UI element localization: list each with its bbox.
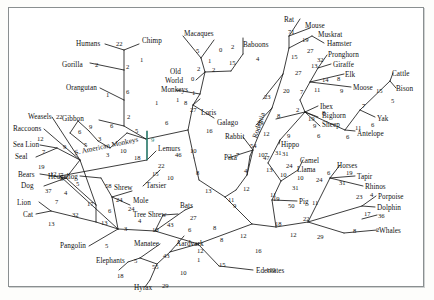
taxon-label-mole: Mole (133, 198, 148, 205)
branch-length: 22 (158, 163, 165, 170)
taxon-label-mouse: Mouse (305, 23, 325, 30)
taxon-label-pig: Pig (299, 199, 309, 206)
branch-length: 8 (322, 110, 325, 117)
branch-length: 58 (105, 183, 112, 190)
branch-length: 54 (250, 143, 257, 150)
branch-length: 17 (87, 201, 94, 208)
taxon-label-muskrat: Muskrat (318, 32, 342, 39)
branch-length: 15 (219, 262, 226, 269)
branch-length: 1 (155, 100, 158, 107)
taxon-label-pronghorn: Pronghorn (328, 52, 359, 59)
branch-length: 1 (192, 90, 195, 97)
branch-length: 5 (84, 142, 87, 149)
branch-length: 7 (300, 89, 303, 96)
branch-length: 7 (362, 103, 365, 110)
branch-length: 22 (116, 41, 123, 48)
branch-length: 2 (126, 64, 129, 71)
branch-length: 6 (78, 129, 81, 136)
branch-length: 15 (291, 54, 298, 61)
branch-length: 2 (197, 66, 200, 73)
taxon-label-rabbit: Rabbit (225, 134, 244, 141)
branch-length: 24 (128, 206, 135, 213)
branch-length: 7 (236, 152, 239, 159)
taxon-label-giraffe: Giraffe (333, 62, 354, 69)
branch-length: 22 (303, 216, 310, 223)
taxon-label-chimp: Chimp (142, 38, 162, 45)
taxon-label-gibbon: Gibbon (62, 116, 84, 123)
branch-length: 2 (231, 44, 234, 51)
branch-length: 23 (264, 94, 271, 101)
branch-length: 1 (140, 57, 143, 64)
taxon-label-hyrax: Hyrax (134, 285, 152, 292)
taxon-label-raccoons: Raccoons (13, 126, 41, 133)
branch-length: 20 (283, 88, 290, 95)
taxon-label-whales: Whales (379, 228, 401, 235)
branch-length: 12 (197, 248, 204, 255)
taxon-label-cat: Cat (23, 212, 33, 219)
branch-length: 27 (190, 215, 197, 222)
branch-length: 10 (280, 172, 287, 179)
branch-length: 13 (311, 63, 318, 70)
taxon-label-world: World (165, 78, 183, 85)
taxon-label-shrew: Shrew (114, 185, 133, 192)
taxon-label-pangolin: Pangolin (60, 243, 86, 250)
branch-length: 27 (190, 107, 197, 114)
branch-length: 6 (317, 133, 320, 140)
branch-length: 10 (167, 175, 174, 182)
branch-length: 18 (117, 273, 124, 280)
taxon-label-gorilla: Gorilla (62, 62, 83, 69)
branch-length: 31 (282, 151, 289, 158)
branch-length: 5 (134, 258, 137, 265)
taxon-label-elk: Elk (345, 72, 355, 79)
branch-length: 2 (127, 114, 130, 121)
branch-length: 1 (208, 58, 211, 65)
taxon-label-dog: Dog (21, 183, 34, 190)
branch-length: 13 (205, 188, 212, 195)
branch-length: 8 (353, 228, 356, 235)
branch-length: 47 (263, 155, 270, 162)
branch-length: 14 (322, 77, 329, 84)
taxon-label-sealion: Sea Lion (13, 142, 39, 149)
branch-length: 6 (188, 227, 191, 234)
branch-length: 11 (355, 125, 361, 132)
branch-length: 6 (110, 123, 113, 130)
branch-length: 8 (337, 76, 340, 83)
branch-length: 32 (72, 212, 79, 219)
branch-length: 2 (212, 67, 215, 74)
taxon-label-bears: Bears (18, 172, 35, 179)
branch-length: 9 (233, 203, 236, 210)
taxon-label-monkeys: Monkeys (161, 87, 188, 94)
branch-length: 12 (243, 186, 250, 193)
branch-length: 19 (302, 37, 309, 44)
branch-length: 5 (135, 128, 138, 135)
branch-length: 4 (370, 192, 373, 199)
branch-length: 43 (167, 222, 174, 229)
branch-length: 10 (180, 270, 187, 277)
branch-length: 12 (37, 136, 44, 143)
branch-length: 18 (134, 155, 141, 162)
branch-length: 55 (152, 264, 159, 271)
taxon-label-rat: Rat (284, 17, 294, 24)
branch-length: 8 (184, 100, 187, 107)
branch-length: 6 (108, 208, 111, 215)
branch-length: 0 (191, 76, 194, 83)
branch-length: 110 (266, 267, 276, 274)
taxon-label-tarsier: Tarsier (146, 183, 166, 190)
branch-length: 71 (288, 29, 295, 36)
branch-length: 36 (378, 213, 385, 220)
branch-length: 8 (220, 237, 223, 244)
taxon-label-hippo: Hippo (281, 142, 299, 149)
branch-length: 7 (42, 149, 45, 156)
branch-length: 27 (295, 70, 302, 77)
branch-length: 11 (314, 87, 320, 94)
branch-length: 12 (50, 171, 57, 178)
branch-length: 1 (106, 92, 109, 99)
branch-length: 23 (356, 194, 363, 201)
branch-length: 19 (346, 170, 353, 177)
taxon-label-humans: Humans (76, 41, 100, 48)
branch-length: 24 (286, 163, 293, 170)
taxon-label-orangutan: Orangutan (66, 85, 97, 92)
branch-length: 2 (95, 62, 98, 69)
branch-length: 6 (165, 120, 168, 127)
taxon-label-macaques: Macaques (184, 31, 214, 38)
